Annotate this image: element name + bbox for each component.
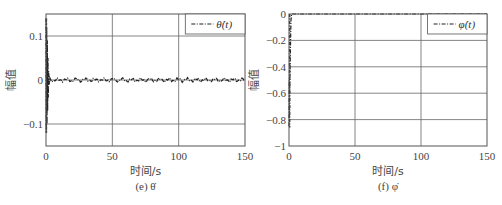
x-tick-labels: 050100150 [43,150,254,162]
legend-entry: φ̇(t) [459,18,476,31]
y-tick-label: −0.1 [23,118,43,130]
y-axis-label: 幅值 [5,69,18,91]
y-tick-label: 0 [281,8,287,20]
x-tick-label: 50 [107,150,119,162]
subfigure-caption: (f) φ̇ [378,180,399,193]
y-tick-label: −0.4 [266,61,286,73]
chart-figure: −0.100.1 050100150 θ̇(t) 幅值 时间/s (e) θ̇ … [0,0,502,205]
x-tick-label: 0 [286,150,292,162]
y-tick-label: −0.8 [266,114,286,126]
legend-entry: θ̇(t) [216,18,232,31]
x-tick-label: 150 [237,150,254,162]
y-tick-label: 0 [38,74,44,86]
series-line-0 [46,18,245,132]
y-tick-labels: −0.100.1 [23,30,43,130]
y-tick-label: −0.6 [266,87,286,99]
x-tick-labels: 050100150 [286,150,496,162]
subfigure-caption: (e) θ̇ [135,180,156,193]
x-tick-label: 0 [43,150,49,162]
chart-panel-e: −0.100.1 050100150 θ̇(t) 幅值 时间/s (e) θ̇ [5,14,254,193]
x-tick-label: 100 [413,150,430,162]
x-tick-label: 100 [170,150,187,162]
y-tick-label: −0.2 [266,34,286,46]
y-tick-labels: −1−0.8−0.6−0.4−0.20 [266,8,286,152]
series-group [46,18,245,132]
x-tick-label: 50 [350,150,362,162]
x-axis-label: 时间/s [130,165,162,178]
legend: φ̇(t) [428,14,487,34]
y-tick-label: 0.1 [29,30,43,42]
x-axis-label: 时间/s [372,165,404,178]
chart-panel-f: −1−0.8−0.6−0.4−0.20 050100150 φ̇(t) 幅值 时… [248,8,496,193]
y-tick-label: −1 [274,140,286,152]
legend: θ̇(t) [185,14,245,34]
x-tick-label: 150 [479,150,496,162]
y-axis-label: 幅值 [248,69,261,91]
